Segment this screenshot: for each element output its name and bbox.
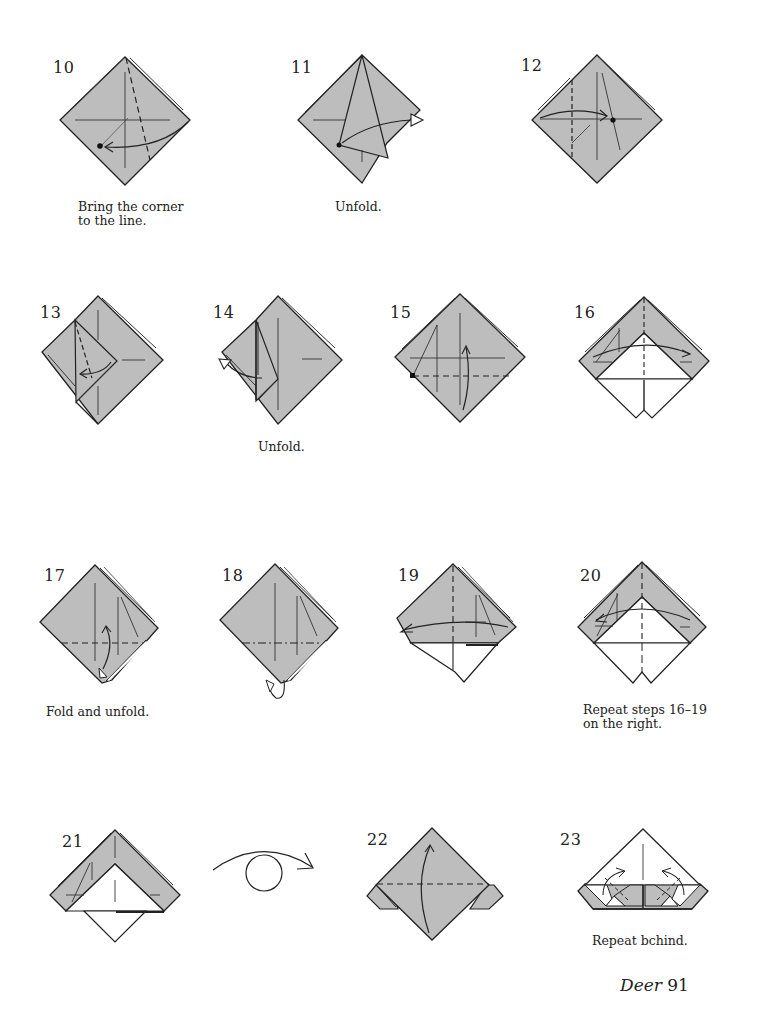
page-number: 91 bbox=[667, 975, 689, 995]
step-caption: Repeat bchind. bbox=[592, 934, 688, 948]
page-footer: Deer 91 bbox=[620, 975, 689, 995]
chapter-title: Deer bbox=[620, 975, 662, 995]
diagram-step-23 bbox=[0, 0, 757, 1026]
